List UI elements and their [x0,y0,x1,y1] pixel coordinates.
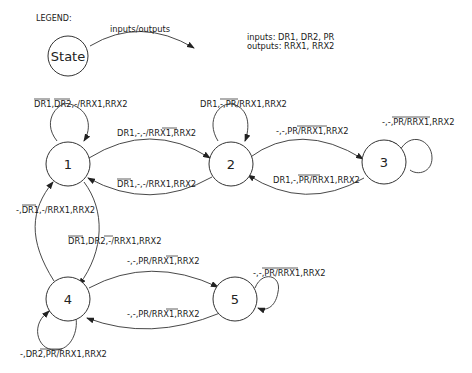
loop-5-5 [255,277,279,309]
label-4-1: -,DR1,-/RRX1,RRX2 [16,205,95,215]
state-3-label: 3 [380,155,388,170]
label-1-1: DR1,DR2,-/RRX1,RRX2 [34,99,128,109]
label-4-4: -,DR2,PR/RRX1,RRX2 [20,349,107,359]
legend-arrow-label: inputs/outputs [110,24,170,34]
legend-outputs: outputs: RRX1, RRX2 [247,41,334,51]
loop-1-1 [50,103,88,141]
label-1-4: DR1,DR2,-/RRX1,RRX2 [68,236,162,246]
label-3-2: DR1,-,PR/RRX1,RRX2 [273,175,360,185]
label-3-3: -,-,PR/RRX1,RRX2 [382,117,454,127]
edge-4-5 [89,271,218,288]
edge-2-3 [249,139,363,159]
label-2-2: DR1,-,PR/RRX1,RRX2 [200,99,287,109]
state-diagram: LEGEND: State inputs/outputs inputs: DR1… [0,0,472,373]
state-4-label: 4 [64,292,72,307]
state-1-label: 1 [64,157,72,172]
label-5-4: -,-,PR/RRX1,RRX2 [127,309,199,319]
label-2-3: -,-,PR/RRX1,RRX2 [276,126,348,136]
state-5-label: 5 [231,292,239,307]
label-1-2: DR1,-,-/RRX1,RRX2 [117,128,196,138]
legend-title: LEGEND: [36,14,72,23]
edge-1-4 [79,182,99,285]
edge-4-1 [35,182,54,281]
label-5-5: -,-,PR/RRX1,RRX2 [253,268,325,278]
edge-1-2 [89,139,210,158]
legend-state-label: State [51,49,85,64]
label-2-1: DR1,-,-/RRX1,RRX2 [117,179,196,189]
loop-2-2 [213,104,248,141]
state-2-label: 2 [227,157,235,172]
label-4-5: -,-,PR/RRX1,RRX2 [127,256,199,266]
